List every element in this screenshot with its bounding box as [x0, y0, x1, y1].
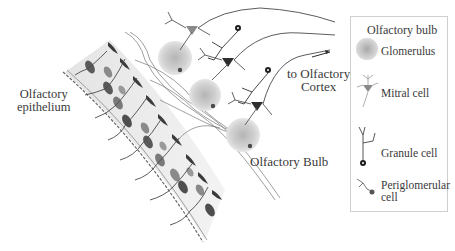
granule-cell-icon [355, 121, 379, 169]
cortex-label-line2: Cortex [287, 80, 350, 93]
legend-granule-label: Granule cell [381, 147, 438, 159]
legend-periglomerular-line1: Periglomerular [381, 179, 450, 191]
legend-title: Olfactory bulb [367, 23, 437, 38]
legend-periglomerular-label: Periglomerular cell [381, 179, 450, 203]
periglomerular-cell-icon [355, 175, 379, 199]
legend: Olfactory bulb Glomerulus Mitral cell [350, 16, 448, 212]
bulb-label: Olfactory Bulb [250, 155, 328, 168]
olfactory-epithelium [63, 40, 225, 242]
glomerulus-icon [355, 37, 379, 61]
epithelium-label-line2: epithelium [17, 101, 70, 114]
olfactory-system-diagram: Olfactory epithelium to Olfactory Cortex… [0, 0, 455, 251]
mitral-cell-icon [355, 71, 379, 111]
legend-glomerulus-label: Glomerulus [381, 45, 435, 57]
legend-mitral-label: Mitral cell [381, 87, 429, 99]
legend-periglomerular-line2: cell [381, 191, 450, 203]
cortex-label: to Olfactory Cortex [287, 67, 350, 93]
epithelium-label: Olfactory epithelium [17, 88, 70, 114]
